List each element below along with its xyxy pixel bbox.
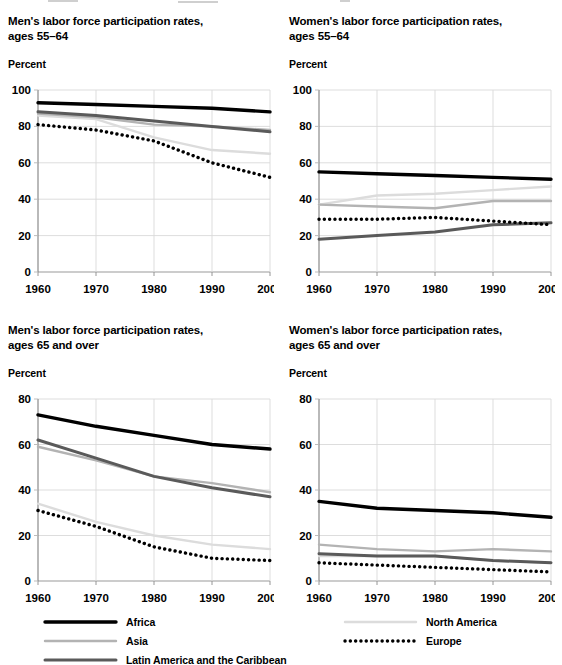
svg-text:1990: 1990 (480, 283, 506, 295)
svg-text:60: 60 (18, 157, 31, 169)
svg-text:1970: 1970 (83, 592, 109, 604)
line-chart-svg: 02040608010019601970198019902000 (8, 84, 274, 304)
panel-title-line2: ages 55–64 (289, 30, 349, 42)
plot-area: 02040608010019601970198019902000 (8, 84, 274, 304)
svg-text:80: 80 (18, 120, 31, 132)
svg-text:80: 80 (299, 120, 312, 132)
y-axis-unit-label: Percent (8, 58, 46, 70)
legend-item: Africa (43, 612, 286, 631)
panel-title-line2: ages 65 and over (8, 339, 99, 351)
svg-text:100: 100 (12, 84, 31, 96)
legend-swatch-latin-america-and-the-caribbean (43, 653, 118, 665)
svg-text:1980: 1980 (422, 283, 448, 295)
panel-title-line1: Women's labor force participation rates, (289, 15, 502, 27)
legend-label: Europe (426, 635, 462, 647)
svg-text:1970: 1970 (83, 283, 109, 295)
svg-text:2000: 2000 (538, 283, 555, 295)
svg-text:20: 20 (18, 230, 31, 242)
plot-area: 02040608010019601970198019902000 (289, 84, 555, 304)
svg-text:2000: 2000 (257, 592, 274, 604)
chart-legend: AfricaAsiaLatin America and the Caribbea… (0, 608, 562, 665)
panel-title-line2: ages 55–64 (8, 30, 68, 42)
panel-title-line1: Men's labor force participation rates, (8, 15, 203, 27)
svg-text:1980: 1980 (141, 592, 167, 604)
svg-text:60: 60 (299, 439, 312, 451)
panel-title: Women's labor force participation rates,… (289, 14, 551, 44)
legend-swatch-north-america (343, 615, 418, 629)
chart-panel-men-65-over: Men's labor force participation rates, a… (0, 315, 281, 617)
legend-label: Latin America and the Caribbean (126, 654, 286, 665)
legend-column-left: AfricaAsiaLatin America and the Caribbea… (43, 612, 286, 665)
legend-item: North America (343, 612, 497, 631)
panel-title: Women's labor force participation rates,… (289, 323, 551, 353)
legend-item: Asia (43, 631, 286, 650)
svg-text:2000: 2000 (538, 592, 555, 604)
panel-title: Men's labor force participation rates, a… (8, 14, 270, 44)
legend-swatch-europe (343, 634, 418, 648)
svg-text:80: 80 (18, 393, 31, 405)
svg-text:60: 60 (299, 157, 312, 169)
chart-panel-men-55-64: Men's labor force participation rates, a… (0, 6, 281, 308)
plot-area: 02040608019601970198019902000 (289, 393, 555, 613)
svg-text:0: 0 (25, 266, 31, 278)
legend-label: Asia (126, 635, 148, 647)
legend-label: Africa (126, 616, 155, 628)
legend-item: Europe (343, 631, 497, 650)
legend-label: North America (426, 616, 497, 628)
y-axis-unit-label: Percent (289, 58, 327, 70)
legend-swatch-africa (43, 615, 118, 629)
svg-text:40: 40 (18, 484, 31, 496)
plot-area: 02040608019601970198019902000 (8, 393, 274, 613)
panel-title-line1: Women's labor force participation rates, (289, 324, 502, 336)
y-axis-unit-label: Percent (8, 367, 46, 379)
svg-text:1960: 1960 (306, 592, 332, 604)
svg-text:0: 0 (306, 575, 312, 587)
svg-text:60: 60 (18, 439, 31, 451)
svg-text:1980: 1980 (141, 283, 167, 295)
panel-title-line2: ages 65 and over (289, 339, 380, 351)
y-axis-unit-label: Percent (289, 367, 327, 379)
svg-text:1970: 1970 (364, 592, 390, 604)
legend-item: Latin America and the Caribbean (43, 650, 286, 665)
svg-text:1960: 1960 (25, 283, 51, 295)
line-chart-svg: 02040608019601970198019902000 (289, 393, 555, 613)
svg-text:1960: 1960 (25, 592, 51, 604)
line-chart-svg: 02040608019601970198019902000 (8, 393, 274, 613)
svg-text:100: 100 (293, 84, 312, 96)
svg-text:20: 20 (299, 230, 312, 242)
svg-text:80: 80 (299, 393, 312, 405)
svg-text:20: 20 (299, 530, 312, 542)
cropped-header-artifact (0, 0, 562, 5)
panel-title: Men's labor force participation rates, a… (8, 323, 270, 353)
svg-text:1990: 1990 (480, 592, 506, 604)
svg-text:1980: 1980 (422, 592, 448, 604)
panel-title-line1: Men's labor force participation rates, (8, 324, 203, 336)
svg-text:40: 40 (299, 193, 312, 205)
line-chart-svg: 02040608010019601970198019902000 (289, 84, 555, 304)
svg-text:40: 40 (299, 484, 312, 496)
chart-panel-women-65-over: Women's labor force participation rates,… (281, 315, 562, 617)
svg-text:40: 40 (18, 193, 31, 205)
svg-text:0: 0 (306, 266, 312, 278)
svg-text:1960: 1960 (306, 283, 332, 295)
svg-text:1990: 1990 (199, 592, 225, 604)
legend-column-right: North AmericaEurope (343, 612, 497, 650)
svg-text:1970: 1970 (364, 283, 390, 295)
chart-panel-women-55-64: Women's labor force participation rates,… (281, 6, 562, 308)
legend-swatch-asia (43, 634, 118, 648)
svg-text:1990: 1990 (199, 283, 225, 295)
svg-text:0: 0 (25, 575, 31, 587)
svg-text:20: 20 (18, 530, 31, 542)
svg-text:2000: 2000 (257, 283, 274, 295)
